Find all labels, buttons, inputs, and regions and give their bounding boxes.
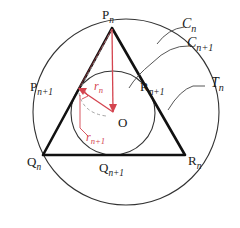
label-center-o: O: [118, 116, 127, 129]
label-q-n-plus-1-sub: n+1: [108, 168, 124, 178]
label-r-n-plus-1-base: R: [140, 79, 149, 94]
label-r-n-base: R: [188, 153, 197, 168]
label-radius-r-n-plus-1-sub: n+1: [91, 136, 105, 146]
label-t-n-base: T: [211, 75, 219, 90]
label-radius-r-n: rn: [94, 80, 103, 95]
label-r-n: Rn: [188, 154, 201, 171]
leader-t-n-curve: [168, 86, 193, 110]
label-q-n: Qn: [27, 155, 41, 172]
label-radius-r-n-sub: n: [99, 85, 103, 95]
radius-line-r-n: [112, 29, 113, 112]
leader-c-n: [157, 27, 184, 44]
label-r-n-sub: n: [197, 161, 202, 171]
label-c-n-plus-1-sub: n+1: [196, 42, 213, 53]
label-q-n-plus-1: Qn+1: [99, 161, 124, 178]
label-r-n-plus-1-sub: n+1: [149, 87, 165, 97]
label-c-n-plus-1-base: C: [187, 35, 196, 50]
label-p-n-sub: n: [109, 15, 114, 25]
label-q-n-sub: n: [36, 162, 41, 172]
label-c-n-plus-1: Cn+1: [187, 36, 213, 53]
label-c-n-sub: n: [191, 23, 196, 34]
label-r-n-plus-1: Rn+1: [140, 80, 164, 97]
label-p-n-plus-1: Pn+1: [30, 80, 53, 97]
leader-c-n-plus-1: [152, 46, 189, 63]
label-q-n-plus-1-base: Q: [99, 160, 108, 175]
label-p-n-plus-1-sub: n+1: [37, 87, 53, 97]
label-p-n: Pn: [102, 8, 114, 25]
diagram-canvas: [0, 0, 240, 228]
label-t-n-sub: n: [219, 82, 224, 93]
label-t-n: Tn: [211, 76, 224, 93]
label-center-o-base: O: [118, 115, 127, 130]
label-q-n-base: Q: [27, 154, 36, 169]
geometry-figure: Pn Qn Rn Pn+1 Rn+1 Qn+1 O Cn Cn+1 Tn rn …: [0, 0, 240, 228]
label-c-n: Cn: [182, 17, 196, 34]
label-c-n-base: C: [182, 16, 191, 31]
label-radius-r-n-plus-1: rn+1: [86, 131, 105, 146]
